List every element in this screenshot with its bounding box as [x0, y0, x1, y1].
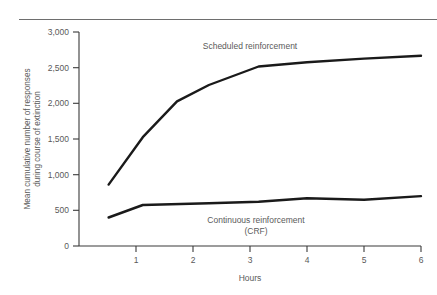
- figure-container: 3,000 2,500 2,000 1,500 1,000 500 0 1 2 …: [0, 0, 437, 295]
- x-tick-label-4: 4: [305, 255, 310, 265]
- series-label-continuous-reinforcement: Continuous reinforcement: [207, 215, 305, 225]
- y-tick-label-2000: 2,000: [48, 98, 70, 108]
- x-axis-ticks: [136, 246, 421, 252]
- y-tick-label-500: 500: [55, 205, 69, 215]
- x-tick-label-1: 1: [134, 255, 139, 265]
- y-axis-title-line1: Mean cumulative number of responses: [23, 68, 32, 209]
- y-tick-label-3000: 3,000: [48, 27, 70, 37]
- chart-plot: 3,000 2,500 2,000 1,500 1,000 500 0 1 2 …: [0, 0, 437, 295]
- y-tick-label-2500: 2,500: [48, 63, 70, 73]
- y-tick-label-1500: 1,500: [48, 134, 70, 144]
- y-tick-label-0: 0: [64, 241, 69, 251]
- x-tick-label-5: 5: [362, 255, 367, 265]
- x-tick-label-2: 2: [191, 255, 196, 265]
- y-axis-ticks: [73, 32, 79, 246]
- x-axis-title: Hours: [239, 273, 262, 283]
- series-line-scheduled-reinforcement: [109, 56, 421, 185]
- x-tick-label-6: 6: [419, 255, 424, 265]
- series-label-continuous-reinforcement-crf: (CRF): [244, 226, 267, 236]
- x-tick-label-3: 3: [248, 255, 253, 265]
- y-tick-label-1000: 1,000: [48, 170, 70, 180]
- y-axis-title-line2: during course of extinction: [33, 91, 42, 187]
- series-label-scheduled-reinforcement: Scheduled reinforcement: [203, 41, 298, 51]
